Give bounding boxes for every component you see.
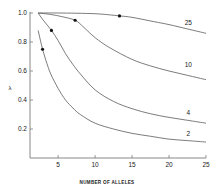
curves: [38, 13, 206, 142]
marker-dot-n-25: [118, 14, 121, 17]
x-tick-label: 15: [128, 161, 136, 168]
curve-n-10: [38, 13, 206, 80]
curve-n-25: [38, 13, 206, 33]
curve-label-n-10: 10: [185, 61, 193, 68]
x-axis-title: NUMBER OF ALLELES: [80, 180, 135, 185]
curve-labels: 251042: [185, 19, 193, 138]
y-tick-label: 0.8: [18, 38, 27, 45]
y-tick-label: 1.0: [18, 9, 27, 16]
x-tick-label: 10: [91, 161, 99, 168]
chart-container: 5101520250.20.40.60.81.0 251042 NUMBER O…: [0, 0, 218, 188]
marker-dot-n-2: [41, 48, 44, 51]
x-tick-label: 5: [56, 161, 60, 168]
curve-n-2: [38, 30, 206, 142]
curve-label-n-2: 2: [186, 130, 190, 137]
y-tick-label: 0.4: [18, 96, 27, 103]
x-tick-label: 25: [202, 161, 210, 168]
y-axis-title: λ: [9, 85, 12, 91]
y-tick-label: 0.6: [18, 67, 27, 74]
curve-label-n-4: 4: [186, 109, 190, 116]
x-tick-label: 20: [165, 161, 173, 168]
marker-dot-n-4: [50, 29, 53, 32]
curve-label-n-25: 25: [185, 19, 193, 26]
y-tick-label: 0.2: [18, 125, 27, 132]
axes: 5101520250.20.40.60.81.0: [18, 9, 210, 168]
marker-dot-n-10: [74, 19, 77, 22]
curve-n-4: [38, 13, 206, 123]
line-chart: 5101520250.20.40.60.81.0 251042 NUMBER O…: [0, 0, 218, 188]
